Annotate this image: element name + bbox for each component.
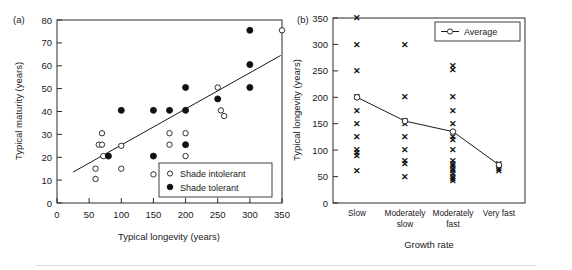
data-point-shade-tolerant xyxy=(183,107,189,113)
figure-bottom-rule xyxy=(36,265,536,266)
category-label-moderately-fast-line1: Moderately xyxy=(432,208,474,218)
data-point-shade-intolerant xyxy=(93,176,98,181)
data-point-x-marker: ✕ xyxy=(449,92,457,102)
x-tick-50: 50 xyxy=(84,209,95,220)
data-point-shade-tolerant xyxy=(150,153,156,159)
data-point-x-marker: ✕ xyxy=(401,92,409,102)
category-label-moderately-fast-line2: fast xyxy=(446,219,460,229)
y-tick-0: 0 xyxy=(323,198,328,209)
y-tick-50: 50 xyxy=(41,83,52,94)
y-tick-40: 40 xyxy=(41,106,52,117)
category-label-slow: Slow xyxy=(348,208,367,218)
data-point-shade-tolerant xyxy=(247,84,253,90)
x-tick-200: 200 xyxy=(178,209,194,220)
y-tick-50: 50 xyxy=(317,171,328,182)
data-point-x-marker: ✕ xyxy=(401,145,409,155)
data-point-shade-tolerant xyxy=(105,153,111,159)
legend-label-shade-intolerant: Shade intolerant xyxy=(180,169,246,179)
legend-filled-circle-icon xyxy=(167,184,173,190)
x-tick-250: 250 xyxy=(210,209,226,220)
data-point-x-marker: ✕ xyxy=(449,145,457,155)
data-point-x-marker: ✕ xyxy=(353,106,361,116)
average-line xyxy=(357,97,499,165)
panel-b-svg: (b) 350 300 250 200 150 xyxy=(285,0,572,270)
legend-open-circle-icon xyxy=(447,29,452,34)
data-point-shade-intolerant xyxy=(167,131,172,136)
panel-a-label: (a) xyxy=(13,14,25,25)
data-point-shade-tolerant xyxy=(118,107,124,113)
y-tickmarks xyxy=(333,18,338,203)
y-tick-200: 200 xyxy=(312,92,328,103)
x-tick-0: 0 xyxy=(54,209,59,220)
data-point-shade-intolerant xyxy=(119,143,124,148)
data-point-shade-tolerant xyxy=(247,62,253,68)
panel-b-x-axis-title: Growth rate xyxy=(404,239,454,250)
y-tick-70: 70 xyxy=(41,37,52,48)
data-point-x-marker: ✕ xyxy=(353,13,361,23)
y-tick-250: 250 xyxy=(312,65,328,76)
data-point-x-marker: ✕ xyxy=(353,40,361,50)
data-point-x-marker: ✕ xyxy=(449,106,457,116)
panel-a-legend[interactable]: Shade intolerant Shade tolerant xyxy=(159,163,272,197)
category-label-moderately-slow-line1: Moderately xyxy=(384,208,426,218)
data-point-shade-intolerant xyxy=(218,108,223,113)
data-point-x-marker: ✕ xyxy=(401,159,409,169)
data-point-shade-intolerant xyxy=(151,172,156,177)
y-tick-300: 300 xyxy=(312,39,328,50)
y-tick-10: 10 xyxy=(41,175,52,186)
data-point-x-marker: ✕ xyxy=(353,66,361,76)
data-point-shade-intolerant xyxy=(167,142,172,147)
average-point-marker xyxy=(496,162,502,168)
y-tick-20: 20 xyxy=(41,152,52,163)
data-point-shade-tolerant xyxy=(150,107,156,113)
y-tick-80: 80 xyxy=(41,15,52,26)
average-markers xyxy=(354,94,502,167)
data-point-shade-tolerant xyxy=(247,27,253,33)
legend-label-average: Average xyxy=(464,27,497,37)
y-tick-0: 0 xyxy=(47,198,52,209)
y-tick-150: 150 xyxy=(312,118,328,129)
data-point-x-marker: ✕ xyxy=(353,119,361,129)
legend-open-circle-icon xyxy=(167,171,172,176)
category-label-very-fast: Very fast xyxy=(483,208,516,218)
average-point-marker xyxy=(402,118,408,124)
data-point-x-marker: ✕ xyxy=(449,135,457,145)
panel-b-y-axis-title: Typical longevity (years) xyxy=(291,59,302,161)
data-point-x-marker: ✕ xyxy=(449,65,457,75)
data-point-x-marker: ✕ xyxy=(353,151,361,161)
shade-intolerant-points xyxy=(93,28,285,182)
category-label-moderately-slow-line2: slow xyxy=(397,219,415,229)
panel-b-y-axis: 350 300 250 200 150 100 50 0 xyxy=(312,13,338,209)
x-tick-100: 100 xyxy=(113,209,129,220)
data-point-shade-tolerant xyxy=(183,84,189,90)
x-tick-150: 150 xyxy=(145,209,161,220)
data-point-shade-tolerant xyxy=(215,96,221,102)
data-point-x-marker: ✕ xyxy=(353,132,361,142)
panel-b-x-axis: Slow Moderately slow Moderately fast Ver… xyxy=(348,208,516,229)
average-point-marker xyxy=(450,129,456,135)
y-tick-60: 60 xyxy=(41,60,52,71)
data-point-x-marker: ✕ xyxy=(401,172,409,182)
x-tick-300: 300 xyxy=(242,209,258,220)
panel-a: (a) 80 70 60 50 xyxy=(0,0,290,270)
panel-b-legend[interactable]: Average xyxy=(435,22,520,41)
data-point-x-marker: ✕ xyxy=(401,40,409,50)
data-point-shade-intolerant xyxy=(221,113,226,118)
y-tick-100: 100 xyxy=(312,145,328,156)
data-point-shade-intolerant xyxy=(99,131,104,136)
data-point-shade-intolerant xyxy=(215,85,220,90)
data-point-shade-intolerant xyxy=(119,166,124,171)
legend-label-shade-tolerant: Shade tolerant xyxy=(180,183,239,193)
data-point-shade-intolerant xyxy=(99,142,104,147)
data-point-shade-tolerant xyxy=(183,142,189,148)
data-point-x-marker: ✕ xyxy=(449,119,457,129)
panel-a-x-axis-title: Typical longevity (years) xyxy=(118,231,220,242)
shade-tolerant-points xyxy=(105,27,252,159)
data-point-shade-intolerant xyxy=(183,153,188,158)
panel-a-x-axis: 0 50 100 150 200 250 300 350 xyxy=(54,198,290,220)
data-point-shade-intolerant xyxy=(93,166,98,171)
y-tickmarks xyxy=(57,20,62,203)
data-point-x-marker: ✕ xyxy=(401,132,409,142)
panel-a-y-axis: 80 70 60 50 40 30 20 10 0 xyxy=(41,15,62,209)
panel-a-y-axis-title: Typical maturity (years) xyxy=(13,62,24,160)
